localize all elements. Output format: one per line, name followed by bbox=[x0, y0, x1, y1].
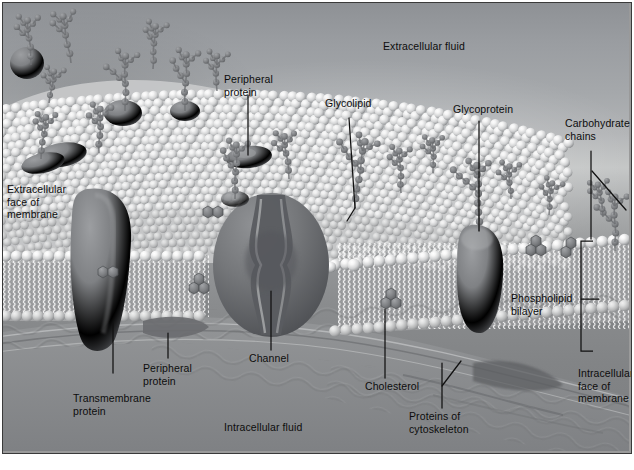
lipid-head bbox=[44, 241, 52, 249]
lipid-head bbox=[25, 214, 34, 223]
carbohydrate-bead bbox=[108, 105, 114, 111]
carbohydrate-bead bbox=[86, 112, 92, 118]
lipid-head bbox=[53, 210, 62, 219]
carbohydrate-bead bbox=[97, 106, 104, 113]
carbohydrate-bead bbox=[549, 180, 555, 186]
lipid-head bbox=[177, 194, 186, 203]
lipid-head bbox=[170, 224, 178, 232]
lipid-head bbox=[179, 209, 188, 218]
lipid-head bbox=[144, 203, 153, 212]
carbohydrate-bead bbox=[70, 9, 76, 15]
lipid-head bbox=[396, 253, 408, 265]
lipid-head bbox=[150, 225, 158, 233]
lipid-head bbox=[268, 180, 277, 189]
lipid-head bbox=[363, 256, 375, 268]
carbohydrate-bead bbox=[143, 27, 149, 33]
lipid-head bbox=[13, 207, 22, 216]
lipid-head bbox=[26, 228, 34, 236]
lipid-head bbox=[183, 250, 194, 261]
lipid-head bbox=[41, 204, 50, 213]
lipid-head bbox=[333, 214, 342, 223]
carbohydrate-bead bbox=[52, 112, 58, 118]
lipid-head bbox=[316, 212, 325, 221]
carbohydrate-bead bbox=[422, 134, 428, 140]
lipid-head bbox=[152, 210, 161, 219]
lipid-head bbox=[57, 202, 66, 211]
carbohydrate-bead bbox=[387, 154, 393, 160]
lipid-head bbox=[370, 173, 379, 182]
lipid-head bbox=[429, 316, 441, 328]
lipid-head bbox=[34, 198, 43, 207]
lipid-head bbox=[527, 188, 536, 197]
carbohydrate-bead bbox=[220, 147, 227, 154]
lipid-head bbox=[177, 239, 185, 247]
lipid-head bbox=[296, 181, 305, 190]
lipid-head bbox=[29, 205, 38, 214]
carbohydrate-bead bbox=[544, 175, 549, 180]
lipid-head bbox=[334, 229, 342, 237]
carbohydrate-bead bbox=[291, 131, 297, 137]
lipid-head bbox=[319, 205, 328, 214]
lipid-head bbox=[32, 220, 40, 228]
lipid-head bbox=[141, 240, 149, 248]
lipid-head bbox=[416, 195, 425, 204]
lipid-head bbox=[131, 211, 140, 220]
lipid-head bbox=[361, 217, 370, 226]
lipid-head bbox=[22, 310, 33, 321]
lipid-head bbox=[418, 251, 430, 263]
lipid-head bbox=[140, 250, 151, 261]
lipid-head bbox=[452, 314, 464, 326]
lipid-head bbox=[507, 244, 519, 256]
carbohydrate-bead bbox=[539, 184, 545, 190]
lipid-head bbox=[343, 200, 352, 209]
lipid-head bbox=[398, 222, 407, 231]
lipid-head bbox=[541, 307, 553, 319]
lipid-head bbox=[507, 310, 519, 322]
lipid-head bbox=[389, 190, 398, 199]
lipid-head bbox=[363, 322, 375, 334]
carbohydrate-bead bbox=[465, 158, 472, 165]
lipid-head bbox=[181, 231, 189, 239]
lipid-head bbox=[252, 179, 261, 188]
carbohydrate-bead bbox=[33, 118, 39, 124]
carbohydrate-bead bbox=[24, 17, 31, 24]
lipid-head bbox=[206, 224, 214, 232]
lipid-head bbox=[500, 226, 509, 235]
lipid-head bbox=[334, 184, 343, 193]
lipid-head bbox=[343, 170, 352, 179]
carbohydrate-bead bbox=[134, 52, 140, 58]
lipid-head bbox=[462, 218, 471, 227]
carbohydrate-bead bbox=[225, 51, 231, 57]
lipid-head bbox=[379, 204, 388, 213]
lipid-head bbox=[429, 250, 441, 262]
lipid-head bbox=[425, 226, 434, 235]
lipid-head bbox=[361, 187, 370, 196]
lipid-head bbox=[53, 225, 61, 233]
lipid-head bbox=[340, 324, 352, 336]
carbohydrate-bead bbox=[506, 163, 512, 169]
lipid-head bbox=[20, 221, 28, 229]
lipid-head bbox=[168, 209, 177, 218]
lipid-head bbox=[418, 317, 430, 329]
carbohydrate-bead bbox=[103, 64, 110, 71]
carbohydrate-bead bbox=[169, 57, 176, 64]
carbohydrate-bead bbox=[51, 68, 57, 74]
carbohydrate-bead bbox=[226, 138, 232, 144]
lipid-head bbox=[329, 325, 341, 337]
carbohydrate-bead bbox=[14, 24, 20, 30]
lipid-head bbox=[132, 226, 140, 234]
carbohydrate-bead bbox=[496, 170, 502, 176]
lipid-head bbox=[151, 250, 162, 261]
carbohydrate-bead bbox=[429, 137, 435, 143]
lipid-head bbox=[43, 310, 54, 321]
lipid-head bbox=[441, 249, 453, 261]
carbohydrate-bead bbox=[420, 144, 426, 150]
lipid-head bbox=[585, 303, 597, 315]
lipid-head bbox=[391, 205, 400, 214]
lipid-head bbox=[168, 165, 177, 174]
lipid-head bbox=[380, 234, 388, 242]
lipid-head bbox=[204, 194, 213, 203]
membrane-illustration bbox=[3, 3, 629, 451]
lipid-head bbox=[482, 207, 491, 216]
lipid-head bbox=[434, 213, 443, 222]
